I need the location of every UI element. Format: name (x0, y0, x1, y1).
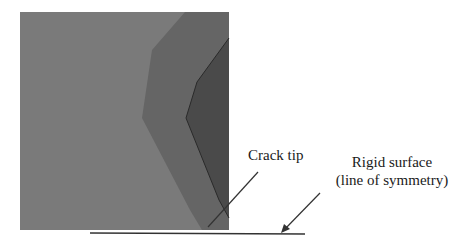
rigid-surface-line (90, 233, 305, 234)
rigid-surface-leader-line (284, 193, 320, 230)
crack-tip-label: Crack tip (248, 146, 303, 164)
rigid-surface-label: Rigid surface (line of symmetry) (330, 153, 454, 189)
rigid-surface-label-line1: Rigid surface (330, 153, 454, 171)
rigid-surface-label-line2: (line of symmetry) (330, 171, 454, 189)
contour-diagram (0, 0, 459, 249)
